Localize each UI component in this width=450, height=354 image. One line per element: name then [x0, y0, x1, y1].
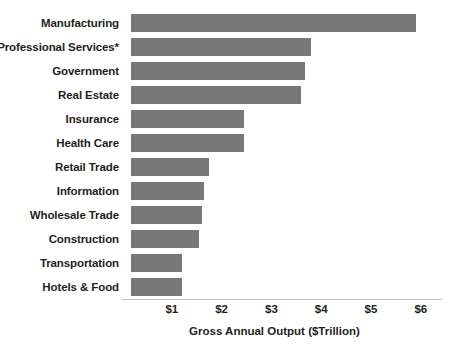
category-label: Transportation: [0, 254, 125, 272]
bar: [131, 206, 202, 224]
category-label: Professional Services*: [0, 38, 125, 56]
tick-label: $5: [365, 303, 378, 315]
value-axis-line: [122, 299, 442, 300]
category-label: Government: [0, 62, 125, 80]
bar: [131, 134, 244, 152]
category-label: Hotels & Food: [0, 278, 125, 296]
tick-label: $3: [265, 303, 278, 315]
plot-area: [122, 14, 427, 299]
value-axis-tick-labels: $1$2$3$4$5$6: [0, 303, 450, 321]
bar: [131, 38, 311, 56]
bar-chart: ManufacturingProfessional Services*Gover…: [0, 0, 450, 354]
bar-row: [122, 278, 427, 296]
bar: [131, 158, 209, 176]
category-label: Real Estate: [0, 86, 125, 104]
category-axis-labels: ManufacturingProfessional Services*Gover…: [0, 14, 125, 302]
bar-row: [122, 230, 427, 248]
category-label: Manufacturing: [0, 14, 125, 32]
bar-row: [122, 254, 427, 272]
category-label: Construction: [0, 230, 125, 248]
bar-row: [122, 182, 427, 200]
bar-row: [122, 158, 427, 176]
tick-label: $6: [414, 303, 427, 315]
bar: [131, 254, 182, 272]
bar-row: [122, 86, 427, 104]
tick-label: $4: [315, 303, 328, 315]
category-label: Retail Trade: [0, 158, 125, 176]
bar-row: [122, 206, 427, 224]
bar: [131, 278, 182, 296]
bar: [131, 86, 301, 104]
value-axis-title: Gross Annual Output ($Trillion): [122, 325, 427, 337]
category-label: Health Care: [0, 134, 125, 152]
bar: [131, 230, 199, 248]
bar-row: [122, 14, 427, 32]
category-label: Wholesale Trade: [0, 206, 125, 224]
tick-label: $2: [215, 303, 228, 315]
tick-label: $1: [165, 303, 178, 315]
category-label: Insurance: [0, 110, 125, 128]
bar-row: [122, 110, 427, 128]
bar-row: [122, 134, 427, 152]
bar-row: [122, 38, 427, 56]
category-label: Information: [0, 182, 125, 200]
bar: [131, 110, 244, 128]
bar: [131, 182, 204, 200]
bar-row: [122, 62, 427, 80]
bar: [131, 14, 416, 32]
bar: [131, 62, 305, 80]
